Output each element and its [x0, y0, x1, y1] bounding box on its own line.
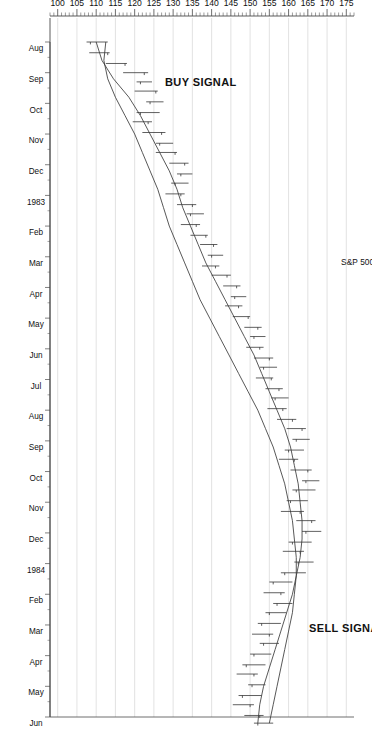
- price-tick-label: 160: [281, 0, 296, 8]
- price-tick-label: 125: [147, 0, 162, 8]
- time-tick-label: Oct: [30, 474, 43, 483]
- time-tick-label: May: [28, 320, 44, 329]
- time-tick-label: Feb: [29, 596, 44, 605]
- time-tick-label: Apr: [30, 290, 43, 299]
- time-tick-label: Aug: [29, 412, 44, 421]
- time-tick-label: 1984: [27, 566, 46, 575]
- rotated-figure-wrapper: 1751701651601551501451401351301251201151…: [0, 0, 372, 735]
- moving-average-line-2: [104, 42, 296, 723]
- price-tick-label: 140: [204, 0, 219, 8]
- price-tick-label: 175: [339, 0, 354, 8]
- price-tick-label: 135: [185, 0, 200, 8]
- annotation-sell-signal: SELL SIGNAL: [309, 622, 372, 634]
- time-tick-label: Aug: [29, 44, 44, 53]
- moving-average-line-1: [96, 42, 302, 723]
- price-tick-label: 170: [320, 0, 335, 8]
- price-tick-label: 130: [166, 0, 181, 8]
- value-axis: [50, 18, 354, 717]
- stock-chart-figure: 1751701651601551501451401351301251201151…: [0, 0, 372, 735]
- price-scale-axis: 1751701651601551501451401351301251201151…: [50, 0, 354, 16]
- time-tick-label: Jun: [29, 719, 43, 728]
- time-tick-label: Oct: [30, 106, 43, 115]
- price-tick-label: 150: [243, 0, 258, 8]
- time-tick-label: Sep: [29, 443, 44, 452]
- time-tick-label: Nov: [29, 136, 44, 145]
- time-tick-label: Mar: [29, 627, 43, 636]
- time-tick-label: Feb: [29, 228, 44, 237]
- price-tick-label: 145: [224, 0, 239, 8]
- price-tick-label: 115: [109, 0, 123, 8]
- price-tick-label: 100: [51, 0, 66, 8]
- time-tick-label: Sep: [29, 75, 44, 84]
- chart-title: S&P 500 Index (1536.280, 1540.530, 1514.…: [341, 257, 372, 267]
- price-tick-label: 165: [301, 0, 316, 8]
- annotation-buy-signal: BUY SIGNAL: [165, 76, 237, 88]
- time-tick-label: Nov: [29, 504, 44, 513]
- time-tick-label: Jul: [31, 382, 42, 391]
- time-tick-label: Mar: [29, 259, 43, 268]
- gridlines: [58, 18, 347, 717]
- time-axis: AugSepOctNovDec1983FebMarAprMayJunJulAug…: [27, 42, 50, 728]
- chart-page: 1751701651601551501451401351301251201151…: [0, 0, 372, 735]
- time-tick-label: 1983: [27, 198, 46, 207]
- price-bars: [87, 42, 322, 726]
- time-tick-label: May: [28, 688, 44, 697]
- time-tick-label: Dec: [29, 535, 44, 544]
- time-tick-label: Jun: [29, 351, 43, 360]
- time-tick-label: Dec: [29, 167, 44, 176]
- price-tick-label: 105: [70, 0, 85, 8]
- time-tick-label: Apr: [30, 658, 43, 667]
- price-tick-label: 110: [89, 0, 103, 8]
- price-tick-label: 120: [127, 0, 142, 8]
- price-tick-label: 155: [262, 0, 277, 8]
